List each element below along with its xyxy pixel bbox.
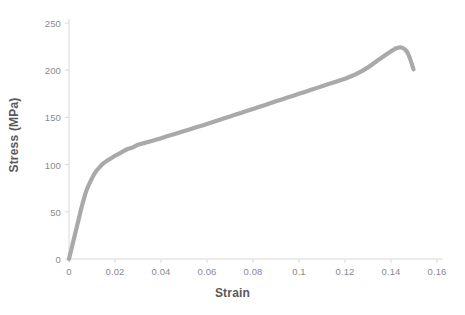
x-tick-label: 0.14 — [382, 266, 401, 277]
stress-strain-curve — [69, 47, 414, 259]
x-tick-label: 0.02 — [106, 266, 125, 277]
y-axis-title: Stress (MPa) — [4, 0, 24, 270]
x-tick-label: 0.08 — [244, 266, 263, 277]
stress-strain-chart: 050100150200250 00.020.040.060.080.10.12… — [0, 0, 465, 315]
y-tick-label: 150 — [45, 112, 61, 123]
x-tick-label: 0.16 — [428, 266, 447, 277]
x-tick-label: 0.04 — [152, 266, 171, 277]
x-tick-label: 0.1 — [292, 266, 306, 277]
y-tick-label: 0 — [56, 254, 61, 265]
data-series-group — [69, 47, 414, 259]
y-tick-label: 50 — [50, 206, 61, 217]
y-axis-title-text: Stress (MPa) — [7, 97, 21, 172]
y-tick-label: 100 — [45, 159, 61, 170]
x-tick-label: 0.12 — [336, 266, 355, 277]
x-axis-title: Strain — [0, 286, 465, 300]
y-tick-label: 250 — [45, 18, 61, 29]
x-axis-title-text: Strain — [215, 286, 250, 300]
x-tick-label: 0 — [66, 266, 71, 277]
x-tick-label: 0.06 — [198, 266, 217, 277]
y-tick-label: 200 — [45, 65, 61, 76]
